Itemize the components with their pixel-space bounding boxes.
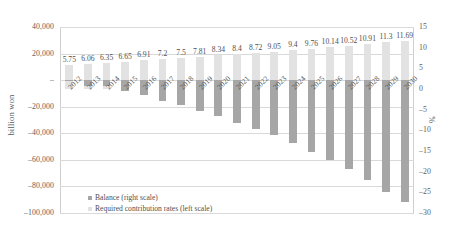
y-tick-label-left: 20,000 <box>0 49 54 58</box>
legend-item-rate: Required contribution rates (left scale) <box>88 203 212 214</box>
gridline <box>60 160 414 161</box>
data-label-rate: 11.69 <box>390 31 420 40</box>
y-tick-label-right: –5 <box>419 105 452 114</box>
bar-balance <box>364 80 372 180</box>
y-tick-label-right: –25 <box>419 187 452 196</box>
legend-item-balance: Balance (right scale) <box>88 192 212 203</box>
bar-balance <box>345 80 353 169</box>
y-tick-label-right: 0 <box>419 84 452 93</box>
y-tick-label-right: 15 <box>419 22 452 31</box>
y-tick-label-right: –15 <box>419 146 452 155</box>
legend-swatch-icon-balance <box>88 196 92 200</box>
bar-balance <box>382 80 390 192</box>
chart-legend: Balance (right scale) Required contribut… <box>88 192 212 214</box>
y-tick-label-right: –10 <box>419 125 452 134</box>
y-tick-label-left: –100,000 <box>0 208 54 217</box>
chart-container: billion won % 40,00020,000––20,000–40,00… <box>0 0 452 239</box>
y-tick-label-left: 40,000 <box>0 22 54 31</box>
y-tick-label-left: –40,000 <box>0 128 54 137</box>
bar-balance <box>401 80 409 202</box>
legend-label-balance: Balance (right scale) <box>95 192 158 203</box>
y-tick-label-right: –20 <box>419 167 452 176</box>
y-tick-label-left: – <box>0 75 54 84</box>
y-tick-label-left: –80,000 <box>0 181 54 190</box>
gridline <box>60 186 414 187</box>
y-tick-label-right: 10 <box>419 43 452 52</box>
y-tick-label-left: –20,000 <box>0 102 54 111</box>
legend-label-rate: Required contribution rates (left scale) <box>95 203 212 214</box>
gridline <box>60 27 414 28</box>
y-tick-label-left: –60,000 <box>0 155 54 164</box>
legend-swatch-icon-rate <box>88 207 92 211</box>
gridline <box>60 133 414 134</box>
bar-balance <box>326 80 334 160</box>
axis-line-right <box>413 27 414 213</box>
y-tick-label-right: 5 <box>419 63 452 72</box>
y-tick-label-right: –30 <box>419 208 452 217</box>
